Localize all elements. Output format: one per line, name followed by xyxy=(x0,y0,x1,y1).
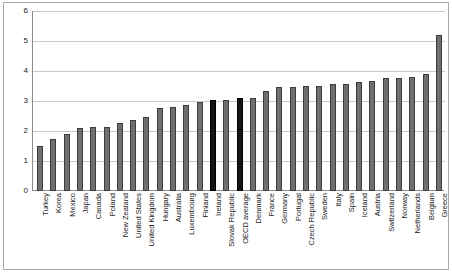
plot-area xyxy=(32,11,444,191)
y-tick-label: 2 xyxy=(6,127,28,135)
x-tick-label: United States xyxy=(135,193,143,238)
x-tick-label: Luxembourg xyxy=(188,193,196,235)
bar-sweden xyxy=(316,86,322,191)
x-axis: TurkeyKoreaMexicoJapanCanadaPolandNew Ze… xyxy=(32,193,444,273)
bar-canada xyxy=(90,127,96,191)
bar-united-states xyxy=(130,120,136,191)
y-tick-label: 4 xyxy=(6,67,28,75)
bars-group xyxy=(33,11,445,191)
bar-ireland xyxy=(210,100,216,191)
bar-france xyxy=(263,91,269,191)
bar-new-zealand xyxy=(117,123,123,191)
bar-norway xyxy=(396,78,402,191)
x-tick-label: Norway xyxy=(401,193,409,218)
x-tick-label: Hungary xyxy=(162,193,170,221)
bar-iceland xyxy=(356,82,362,191)
bar-portugal xyxy=(290,87,296,191)
x-tick-label: New Zealand xyxy=(122,193,130,237)
x-tick-label: Sweden xyxy=(321,193,329,220)
x-tick-label: OECD average xyxy=(242,193,250,244)
x-tick-label: Poland xyxy=(109,193,117,216)
x-tick-label: United Kingdom xyxy=(148,193,156,246)
bar-australia xyxy=(170,107,176,191)
x-tick-label: Finland xyxy=(202,193,210,218)
y-tick-label: 5 xyxy=(6,37,28,45)
x-tick-label: Austria xyxy=(374,193,382,216)
bar-luxembourg xyxy=(183,105,189,191)
bar-italy xyxy=(330,84,336,191)
x-tick-label: Greece xyxy=(441,193,449,218)
bar-japan xyxy=(77,128,83,191)
bar-oecd-average xyxy=(237,98,243,191)
bar-united-kingdom xyxy=(143,117,149,191)
bar-netherlands xyxy=(409,77,415,191)
bar-hungary xyxy=(157,108,163,191)
x-tick-label: Portugal xyxy=(295,193,303,221)
x-tick-label: Netherlands xyxy=(414,193,422,233)
bar-slovak-republic xyxy=(223,100,229,191)
bar-korea xyxy=(50,139,56,191)
x-tick-label: Czech Republic xyxy=(308,193,316,246)
x-tick-label: Australia xyxy=(175,193,183,222)
x-tick-label: Slovak Republic xyxy=(228,193,236,247)
x-tick-label: Italy xyxy=(335,193,343,207)
bar-turkey xyxy=(37,146,43,191)
bar-greece xyxy=(436,35,442,191)
y-axis: 0123456 xyxy=(4,0,28,274)
y-tick-label: 6 xyxy=(6,7,28,15)
x-tick-label: Switzerland xyxy=(388,193,396,232)
x-tick-label: Belgium xyxy=(428,193,436,220)
x-tick-label: Canada xyxy=(95,193,103,219)
x-tick-label: Ireland xyxy=(215,193,223,216)
y-tick-label: 3 xyxy=(6,97,28,105)
x-tick-label: Spain xyxy=(348,193,356,212)
x-tick-label: Japan xyxy=(82,193,90,213)
bar-chart-figure: 0123456 TurkeyKoreaMexicoJapanCanadaPola… xyxy=(0,0,453,274)
bar-poland xyxy=(104,127,110,191)
x-tick-label: Turkey xyxy=(42,193,50,216)
y-tick-label: 0 xyxy=(6,187,28,195)
x-tick-label: France xyxy=(268,193,276,216)
x-tick-label: Denmark xyxy=(255,193,263,223)
bar-belgium xyxy=(423,74,429,191)
x-tick-label: Mexico xyxy=(69,193,77,217)
bar-czech-republic xyxy=(303,86,309,191)
x-tick-label: Korea xyxy=(55,193,63,213)
bar-mexico xyxy=(64,134,70,191)
x-tick-label: Germany xyxy=(281,193,289,224)
bar-switzerland xyxy=(383,78,389,191)
bar-germany xyxy=(276,87,282,191)
y-tick-label: 1 xyxy=(6,157,28,165)
bar-austria xyxy=(369,81,375,191)
bar-spain xyxy=(343,84,349,191)
bar-denmark xyxy=(250,98,256,191)
bar-finland xyxy=(197,102,203,191)
x-tick-label: Iceland xyxy=(361,193,369,217)
